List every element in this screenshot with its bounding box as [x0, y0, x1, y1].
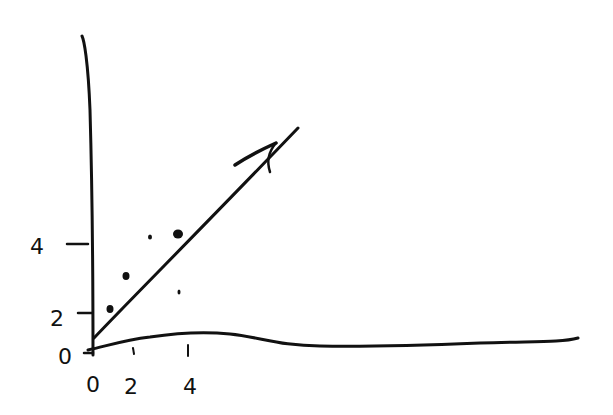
x-tick-2 [133, 348, 134, 354]
data-point [107, 305, 114, 313]
data-point [148, 235, 152, 240]
hand-drawn-plot: 4 2 0 0 2 4 [0, 0, 613, 415]
data-point [173, 230, 183, 239]
x-axis [88, 333, 578, 350]
x-label-4: 4 [183, 374, 197, 399]
data-point [178, 290, 181, 295]
x-label-2: 2 [124, 374, 138, 399]
y-axis [82, 36, 93, 355]
y-label-0: 0 [58, 344, 72, 369]
y-label-4: 4 [30, 234, 44, 259]
x-label-0: 0 [86, 372, 100, 397]
y-label-2: 2 [50, 306, 64, 331]
data-point [123, 272, 130, 280]
